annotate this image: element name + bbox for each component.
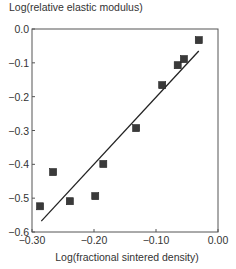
x-axis-label: Log(fractional sintered density) [0, 251, 236, 263]
data-point-marker [180, 56, 187, 63]
y-tick-label: −0.1 [8, 57, 29, 69]
y-tick-label: −0.3 [8, 125, 29, 137]
y-tick-label: 0.0 [14, 23, 29, 35]
data-point-marker [100, 160, 107, 167]
scatter-plot: 0.0−0.1−0.2−0.3−0.4−0.5−0.6 −0.30−0.20−0… [0, 0, 236, 269]
y-tick-label: −0.4 [8, 158, 29, 170]
x-tick-label: −0.30 [19, 234, 46, 246]
data-point-marker [37, 203, 44, 210]
x-tick-label: −0.10 [143, 234, 170, 246]
data-point-marker [66, 198, 73, 205]
data-point-marker [159, 82, 166, 89]
y-axis: 0.0−0.1−0.2−0.3−0.4−0.5−0.6 [8, 23, 35, 238]
fit-line [41, 51, 198, 221]
data-point-marker [50, 169, 57, 176]
data-point-marker [133, 125, 140, 132]
y-tick-label: −0.2 [8, 91, 29, 103]
data-point-marker [195, 37, 202, 44]
y-tick-label: −0.5 [8, 192, 29, 204]
data-points [37, 37, 203, 210]
x-tick-label: −0.20 [81, 234, 108, 246]
x-tick-label: 0.00 [208, 234, 229, 246]
data-point-marker [92, 193, 99, 200]
